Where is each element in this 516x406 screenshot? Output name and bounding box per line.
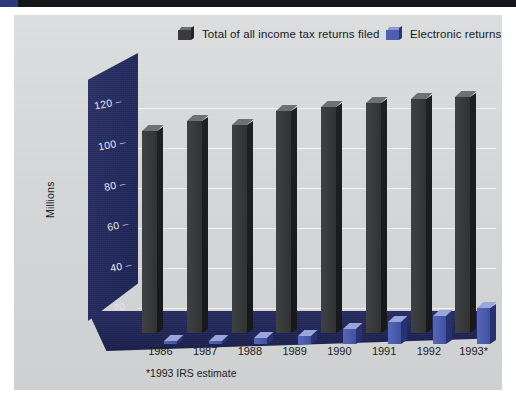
- x-tick-1993: 1993*: [451, 345, 496, 357]
- screenshot-root: Total of all income tax returns filed El…: [0, 0, 516, 406]
- bar-electronic-returns[interactable]: [254, 338, 267, 344]
- page-edge-strip: [0, 0, 516, 7]
- plot-area: 120 – 100 – 80 – 60 – 40 – 20 –: [60, 53, 496, 365]
- legend-label-electronic-returns: Electronic returns: [410, 28, 501, 40]
- legend-item-electronic-returns: Electronic returns: [386, 27, 501, 40]
- x-tick-1988: 1988: [228, 345, 273, 357]
- x-tick-1992: 1992: [407, 345, 452, 357]
- bar-total-returns[interactable]: [411, 99, 426, 333]
- bar-electronic-returns[interactable]: [433, 316, 446, 344]
- bar-electronic-returns[interactable]: [298, 336, 311, 344]
- bar-total-returns[interactable]: [232, 125, 247, 333]
- page-edge-accent: [0, 0, 18, 7]
- bar-total-returns[interactable]: [142, 131, 157, 333]
- bar-total-returns[interactable]: [276, 111, 291, 333]
- bar-electronic-returns[interactable]: [209, 341, 222, 344]
- legend-label-total-returns: Total of all income tax returns filed: [202, 28, 380, 40]
- bar-total-returns[interactable]: [455, 97, 470, 333]
- bar-total-returns[interactable]: [187, 121, 202, 333]
- x-axis-labels: 19861987198819891990199119921993*: [60, 345, 496, 361]
- y-axis-title: Millions: [42, 165, 58, 235]
- chart-footnote: *1993 IRS estimate: [146, 367, 236, 379]
- x-tick-1987: 1987: [183, 345, 228, 357]
- chart-panel: Total of all income tax returns filed El…: [14, 15, 502, 390]
- bar-electronic-returns[interactable]: [477, 308, 490, 344]
- legend-item-total-returns: Total of all income tax returns filed: [178, 27, 380, 40]
- chart-legend: Total of all income tax returns filed El…: [164, 27, 494, 49]
- blue-bar-swatch-icon: [386, 27, 403, 40]
- bar-electronic-returns[interactable]: [164, 341, 177, 344]
- bar-total-returns[interactable]: [366, 103, 381, 333]
- dark-bar-swatch-icon: [178, 27, 195, 40]
- bar-series-container: [138, 53, 496, 351]
- x-tick-1986: 1986: [138, 345, 183, 357]
- x-tick-1990: 1990: [317, 345, 362, 357]
- x-tick-1991: 1991: [362, 345, 407, 357]
- x-tick-1989: 1989: [272, 345, 317, 357]
- bar-total-returns[interactable]: [321, 107, 336, 333]
- bar-electronic-returns[interactable]: [388, 322, 401, 344]
- bar-electronic-returns[interactable]: [343, 329, 356, 344]
